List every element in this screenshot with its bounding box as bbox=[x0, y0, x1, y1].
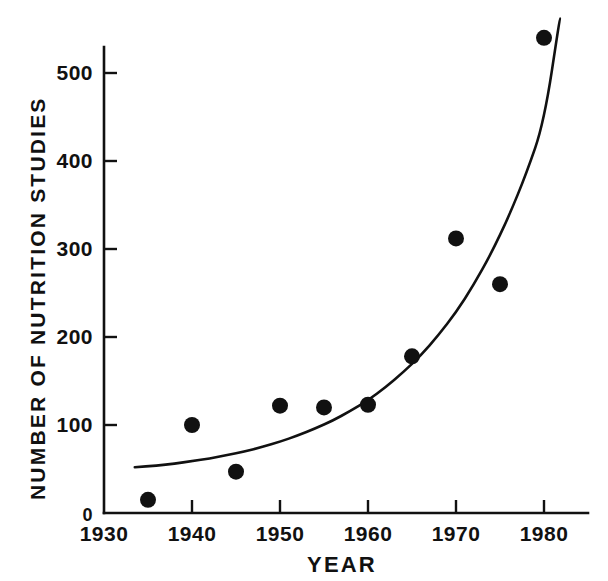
x-axis-tick-label: 1940 bbox=[168, 522, 217, 546]
plot-area bbox=[0, 0, 608, 581]
x-axis-tick-label: 1980 bbox=[520, 522, 569, 546]
y-axis-tick-label: 400 bbox=[56, 149, 93, 173]
data-point bbox=[536, 30, 552, 46]
data-point bbox=[492, 276, 508, 292]
x-axis-title: YEAR bbox=[307, 552, 377, 578]
data-point bbox=[228, 464, 244, 480]
data-point bbox=[272, 398, 288, 414]
data-point bbox=[140, 492, 156, 508]
data-point bbox=[448, 230, 464, 246]
x-axis-tick-label: 1960 bbox=[344, 522, 393, 546]
data-point bbox=[404, 348, 420, 364]
y-axis-title: NUMBER OF NUTRITION STUDIES bbox=[26, 96, 50, 500]
y-axis-tick-label: 300 bbox=[56, 237, 93, 261]
data-point-series bbox=[140, 30, 552, 508]
fit-curve bbox=[135, 18, 560, 467]
data-point bbox=[360, 397, 376, 413]
y-axis-tick-label: 100 bbox=[56, 413, 93, 437]
data-point bbox=[316, 399, 332, 415]
axes-group bbox=[104, 47, 588, 513]
x-axis-tick-label: 1950 bbox=[256, 522, 305, 546]
y-axis-tick-label: 200 bbox=[56, 325, 93, 349]
x-axis-ticks bbox=[192, 500, 544, 513]
x-axis-tick-label: 1970 bbox=[432, 522, 481, 546]
y-axis-tick-label: 500 bbox=[56, 61, 93, 85]
chart-figure: 0100200300400500 19301940195019601970198… bbox=[0, 0, 608, 581]
y-axis-ticks bbox=[104, 73, 117, 425]
x-axis-tick-label: 1930 bbox=[80, 522, 129, 546]
data-point bbox=[184, 417, 200, 433]
